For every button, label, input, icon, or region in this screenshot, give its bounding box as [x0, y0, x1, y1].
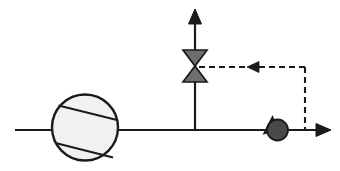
process-diagram-canvas: [0, 0, 340, 171]
diagram-background: [0, 0, 340, 171]
centrifugal-pump[interactable]: [52, 95, 118, 161]
flow-sensor-body-circle: [267, 120, 288, 141]
pid-schematic: [0, 0, 340, 171]
